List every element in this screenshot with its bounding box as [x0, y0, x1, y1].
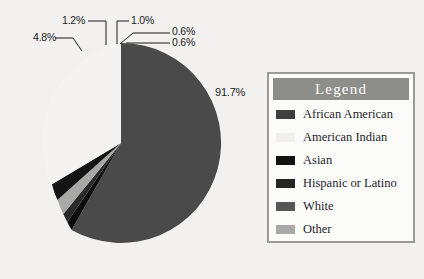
- legend-inner: Legend African American American Indian …: [273, 78, 409, 237]
- legend-item-other[interactable]: Other: [273, 218, 409, 241]
- legend-item-white[interactable]: White: [273, 195, 409, 218]
- legend-item-asian[interactable]: Asian: [273, 149, 409, 172]
- legend: Legend African American American Indian …: [267, 72, 415, 243]
- legend-label-white: White: [303, 200, 334, 213]
- slice-label-white: 91.7%: [215, 87, 245, 98]
- legend-swatch-white: [276, 202, 295, 211]
- leader-line-american-indian: [55, 38, 82, 51]
- legend-label-other: Other: [303, 223, 331, 236]
- leader-line-hispanic-or-latino: [120, 33, 170, 44]
- legend-label-american-indian: American Indian: [303, 131, 387, 144]
- pie-chart-figure: 4.8% 1.2% 1.0% 0.6% 0.6% 91.7% Legend Af…: [0, 0, 424, 279]
- legend-swatch-other: [276, 225, 295, 234]
- slice-label-asian: 0.6%: [172, 37, 195, 48]
- slice-label-hispanic-or-latino: 0.6%: [172, 26, 195, 37]
- slice-label-american-indian: 4.8%: [33, 32, 56, 43]
- legend-title: Legend: [315, 81, 367, 98]
- legend-item-hispanic-or-latino[interactable]: Hispanic or Latino: [273, 172, 409, 195]
- legend-swatch-african-american: [276, 110, 295, 119]
- legend-entries: African American American Indian Asian H…: [273, 103, 409, 241]
- leader-line-african-american: [88, 21, 106, 45]
- legend-label-african-american: African American: [303, 108, 393, 121]
- legend-item-american-indian[interactable]: American Indian: [273, 126, 409, 149]
- legend-swatch-hispanic-or-latino: [276, 179, 295, 188]
- legend-swatch-asian: [276, 156, 295, 165]
- slice-label-other: 1.0%: [131, 15, 154, 26]
- slice-label-african-american: 1.2%: [62, 15, 85, 26]
- legend-swatch-american-indian: [276, 133, 295, 142]
- legend-item-african-american[interactable]: African American: [273, 103, 409, 126]
- leader-line-other: [117, 21, 129, 44]
- legend-label-asian: Asian: [303, 154, 332, 167]
- legend-header: Legend: [273, 78, 409, 100]
- legend-label-hispanic-or-latino: Hispanic or Latino: [303, 177, 397, 190]
